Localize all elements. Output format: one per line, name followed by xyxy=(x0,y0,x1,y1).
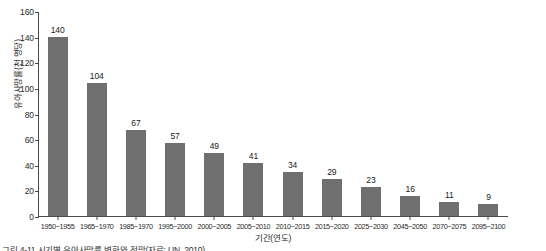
plot-area: 160140120100806040200 140104675749413429… xyxy=(38,12,508,217)
bar-value-label: 34 xyxy=(288,160,297,170)
bar-slot: 34 xyxy=(273,12,312,216)
x-axis-title: 기간(연도) xyxy=(0,231,546,243)
figure-caption: 그림 4-11 시기별 유아사망률 변화와 전망(자료: UN, 2010) xyxy=(2,243,205,251)
bar-slot: 49 xyxy=(195,12,234,216)
bar-slot: 104 xyxy=(77,12,116,216)
bar-slot: 57 xyxy=(156,12,195,216)
bar-value-label: 9 xyxy=(486,192,491,202)
x-axis-tick-mark xyxy=(214,216,215,220)
x-axis-tick-mark xyxy=(331,216,332,220)
x-axis-tick-mark xyxy=(292,216,293,220)
bar xyxy=(126,130,146,216)
bar xyxy=(439,202,459,216)
x-axis-tick-mark xyxy=(175,216,176,220)
y-axis-tick-label: 60 xyxy=(4,135,34,145)
x-axis-tick-mark xyxy=(57,216,58,220)
bar xyxy=(322,179,342,216)
x-axis-tick-label: 1995~2000 xyxy=(156,222,195,231)
bar-slot: 140 xyxy=(38,12,77,216)
x-axis-tick-mark xyxy=(410,216,411,220)
bar-value-label: 67 xyxy=(131,118,140,128)
bar xyxy=(478,204,498,216)
bar-value-label: 29 xyxy=(327,167,336,177)
x-axis-tick-labels: 1950~19551965~19701985~19701995~20002000… xyxy=(38,222,508,231)
x-axis-tick-mark xyxy=(135,216,136,220)
bar xyxy=(243,163,263,216)
bar-slot: 41 xyxy=(234,12,273,216)
y-axis-tick-label: 0 xyxy=(4,212,34,222)
x-axis-tick-label: 1965~1970 xyxy=(77,222,116,231)
x-axis-tick-label: 2025~2030 xyxy=(351,222,390,231)
bar xyxy=(283,172,303,216)
y-axis-tick-label: 80 xyxy=(4,110,34,120)
x-axis-tick-mark xyxy=(449,216,450,220)
x-axis-tick-label: 1950~1955 xyxy=(38,222,77,231)
bar-value-label: 57 xyxy=(170,131,179,141)
y-axis-tick-label: 100 xyxy=(4,84,34,94)
bar xyxy=(400,196,420,217)
x-axis-tick-label: 2045~2050 xyxy=(391,222,430,231)
x-axis-tick-label: 2015~2020 xyxy=(312,222,351,231)
bar-series: 1401046757494134292316119 xyxy=(38,12,508,216)
bar-value-label: 11 xyxy=(445,190,454,200)
bar-slot: 9 xyxy=(469,12,508,216)
x-axis-tick-label: 2005~2010 xyxy=(234,222,273,231)
bar-slot: 23 xyxy=(351,12,390,216)
y-axis-tick-mark xyxy=(35,217,39,218)
x-axis-tick-mark xyxy=(370,216,371,220)
y-axis-tick-label: 160 xyxy=(4,7,34,17)
y-axis-tick-label: 40 xyxy=(4,161,34,171)
bar xyxy=(48,37,68,216)
x-axis-tick-mark xyxy=(488,216,489,220)
bar-slot: 16 xyxy=(391,12,430,216)
y-axis-tick-label: 20 xyxy=(4,186,34,196)
bar-value-label: 140 xyxy=(51,25,65,35)
x-axis-tick-label: 2010~2015 xyxy=(273,222,312,231)
bar xyxy=(204,153,224,216)
x-axis-tick-mark xyxy=(253,216,254,220)
x-axis-tick-label: 2000~2005 xyxy=(195,222,234,231)
bar-value-label: 23 xyxy=(366,175,375,185)
x-axis-tick-label: 2095~2100 xyxy=(469,222,508,231)
bar-value-label: 104 xyxy=(90,71,104,81)
x-axis-tick-mark xyxy=(96,216,97,220)
bar-slot: 29 xyxy=(312,12,351,216)
y-axis-tick-label: 120 xyxy=(4,58,34,68)
bar xyxy=(361,187,381,216)
y-axis-tick-label: 140 xyxy=(4,33,34,43)
bar-slot: 11 xyxy=(430,12,469,216)
bar-slot: 67 xyxy=(116,12,155,216)
bar xyxy=(87,83,107,216)
x-axis-tick-label: 1985~1970 xyxy=(116,222,155,231)
infant-mortality-bar-chart: 유아사망률(천 명당) 160140120100806040200 140104… xyxy=(0,0,546,251)
bar-value-label: 49 xyxy=(210,141,219,151)
x-axis-tick-label: 2070~2075 xyxy=(430,222,469,231)
x-axis-line xyxy=(38,216,508,217)
bar xyxy=(165,143,185,216)
bar-value-label: 16 xyxy=(406,184,415,194)
bar-value-label: 41 xyxy=(249,151,258,161)
